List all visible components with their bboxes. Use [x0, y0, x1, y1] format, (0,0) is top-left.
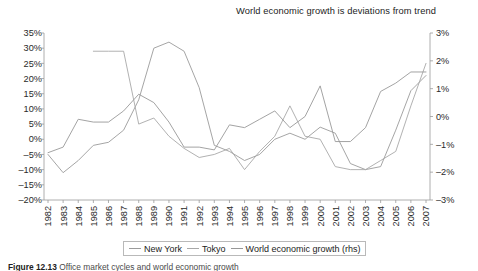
y-axis-left-tick-label: 0%	[29, 134, 42, 144]
series-line-world-economic-growth-rhs	[48, 72, 426, 153]
y-axis-left-tick-label: 25%	[24, 59, 42, 69]
chart-legend: New YorkTokyoWorld economic growth (rhs)	[123, 241, 366, 256]
legend-swatch-icon	[231, 248, 243, 249]
y-axis-right-tick-label: 1%	[436, 84, 449, 94]
y-axis-right-labels: 3%2%1%0%–1%–2%–3%	[436, 28, 454, 205]
x-axis-tick-label: 1993	[210, 206, 220, 226]
legend-swatch-icon	[187, 248, 199, 249]
y-axis-left-tick-label: 30%	[24, 43, 42, 53]
y-axis-right-tick-label: –3%	[436, 195, 454, 205]
x-axis-tick-label: 2001	[331, 206, 341, 226]
y-axis-left-tick-label: –10%	[19, 165, 43, 175]
figure-caption-number: Figure 12.13	[8, 262, 57, 271]
x-axis-tick-label: 1985	[89, 206, 99, 226]
x-axis-tick-label: 2007	[421, 206, 431, 226]
series-line-new-york	[48, 42, 426, 173]
y-axis-right-tick-label: –2%	[436, 167, 454, 177]
y-axis-left-tick-label: –5%	[24, 150, 42, 160]
legend-entry[interactable]: World economic growth (rhs)	[231, 244, 361, 254]
legend-swatch-icon	[129, 248, 141, 249]
x-axis-tick-label: 1999	[300, 206, 310, 226]
figure-caption: Figure 12.13 Office market cycles and wo…	[8, 262, 478, 271]
y-axis-right-tick-label: 0%	[436, 112, 449, 122]
legend-label: Tokyo	[202, 244, 226, 254]
x-axis-tick-label: 1984	[74, 206, 84, 226]
x-axis-tick-label: 1992	[195, 206, 205, 226]
x-axis-tick-label: 1994	[225, 206, 235, 226]
y-axis-left-tick-label: 10%	[24, 104, 42, 114]
y-axis-left-tick-label: 35%	[24, 28, 42, 38]
chart-plot-area: 35%30%25%20%15%10%5%0%–5%–10%–15%–20% 3%…	[0, 0, 478, 271]
x-axis-tick-label: 1998	[285, 206, 295, 226]
x-axis-tick-label: 1987	[119, 206, 129, 226]
legend-label: World economic growth (rhs)	[246, 244, 361, 254]
x-axis-tick-label: 1990	[164, 206, 174, 226]
y-axis-left-tick-label: 15%	[24, 89, 42, 99]
legend-label: New York	[144, 244, 182, 254]
x-axis-tick-label: 2000	[316, 206, 326, 226]
x-axis-tick-label: 2003	[361, 206, 371, 226]
y-axis-left-tick-label: 5%	[29, 119, 42, 129]
chart-axes	[41, 33, 433, 203]
x-axis-tick-label: 1983	[59, 206, 69, 226]
y-axis-left-tick-label: –15%	[19, 180, 43, 190]
y-axis-left-tick-label: –20%	[19, 195, 43, 205]
x-axis-tick-label: 2004	[376, 206, 386, 226]
series-line-tokyo	[93, 51, 426, 169]
figure-container: World economic growth is deviations from…	[0, 0, 478, 271]
x-axis-tick-label: 1995	[240, 206, 250, 226]
x-axis-tick-label: 1986	[104, 206, 114, 226]
x-axis-labels: 1982198319841985198619871988198919901991…	[43, 206, 431, 226]
x-axis-tick-label: 2002	[346, 206, 356, 226]
x-axis-tick-label: 2005	[391, 206, 401, 226]
x-axis-tick-label: 1988	[134, 206, 144, 226]
x-axis-tick-label: 1996	[255, 206, 265, 226]
y-axis-right-tick-label: –1%	[436, 140, 454, 150]
x-axis-tick-label: 1997	[270, 206, 280, 226]
x-axis-tick-label: 1991	[179, 206, 189, 226]
y-axis-right-tick-label: 3%	[436, 28, 449, 38]
x-axis-tick-label: 2006	[406, 206, 416, 226]
y-axis-right-tick-label: 2%	[436, 56, 449, 66]
x-axis-tick-label: 1982	[43, 206, 53, 226]
x-axis-tick-label: 1989	[149, 206, 159, 226]
legend-entry[interactable]: Tokyo	[187, 244, 226, 254]
y-axis-left-labels: 35%30%25%20%15%10%5%0%–5%–10%–15%–20%	[19, 28, 43, 205]
y-axis-left-tick-label: 20%	[24, 74, 42, 84]
chart-series-lines	[48, 42, 426, 173]
figure-caption-text: Office market cycles and world economic …	[59, 262, 239, 271]
legend-entry[interactable]: New York	[129, 244, 182, 254]
